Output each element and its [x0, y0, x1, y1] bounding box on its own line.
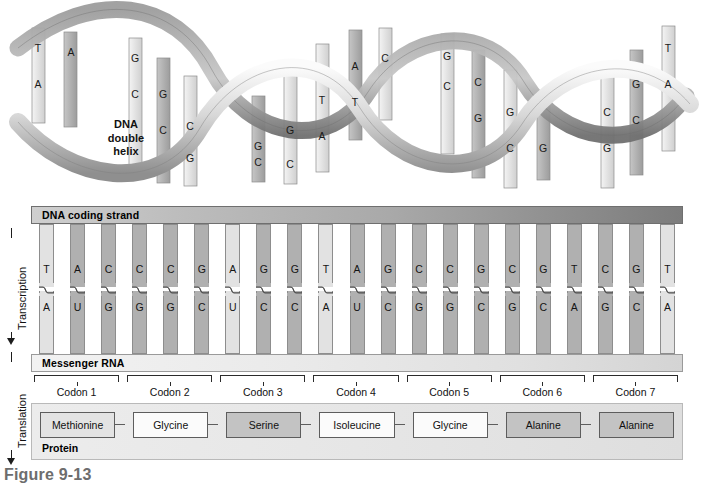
helix-base-letter: C	[284, 158, 296, 170]
helix-base-letter: C	[441, 80, 453, 92]
dna-base-letter: G	[629, 264, 644, 275]
rna-base-letter: A	[660, 302, 675, 313]
amino-acid-label: Serine	[249, 419, 279, 431]
codon-label: Codon 6	[500, 386, 585, 399]
codon-group: Codon 3	[220, 375, 305, 401]
base-pair-column: GC	[256, 224, 271, 354]
base-pair-column: CG	[163, 224, 178, 354]
rna-base-letter: C	[194, 302, 209, 313]
helix-base-letter: A	[32, 78, 44, 90]
helix-base-letter: G	[284, 124, 296, 136]
helix-base-letter: T	[349, 96, 361, 108]
dna-base-letter: A	[225, 264, 240, 275]
amino-acid-box: Glycine	[413, 412, 488, 438]
codon-bracket	[127, 375, 212, 382]
dna-coding-strand-banner: DNA coding strand	[31, 206, 683, 224]
hydrogen-bond-notch	[474, 282, 489, 295]
helix-base-letter: A	[349, 60, 361, 72]
helix-base-letter: G	[441, 50, 453, 62]
base-pair-column: CG	[132, 224, 147, 354]
transcription-axis-label: Transcription	[16, 267, 28, 330]
codon-label: Codon 2	[127, 386, 212, 399]
dna-base-letter: G	[287, 264, 302, 275]
helix-base-letter: G	[157, 88, 169, 100]
base-pair-column: CG	[412, 224, 427, 354]
base-pair-column: AU	[350, 224, 365, 354]
codon-group: Codon 7	[593, 375, 678, 401]
peptide-bond-link	[581, 424, 591, 425]
hydrogen-bond-notch	[163, 282, 178, 295]
hydrogen-bond-notch	[350, 282, 365, 295]
codon-group: Codon 6	[500, 375, 585, 401]
peptide-bond-link	[395, 424, 405, 425]
rna-base-letter: A	[39, 302, 54, 313]
dna-base-letter: G	[256, 264, 271, 275]
codon-bracket	[593, 375, 678, 382]
base-pair-column: TA	[39, 224, 54, 354]
figure-caption: Figure 9-13	[4, 466, 92, 484]
codon-bracket	[500, 375, 585, 382]
hydrogen-bond-notch	[536, 282, 551, 295]
codon-bracket	[220, 375, 305, 382]
peptide-bond-link	[115, 424, 125, 425]
base-pair-column: CG	[598, 224, 613, 354]
dna-base-letter: C	[443, 264, 458, 275]
helix-base-letter: G	[537, 142, 549, 154]
rna-base-letter: G	[132, 302, 147, 313]
dna-base-segment	[163, 224, 178, 287]
dna-base-segment	[318, 224, 333, 287]
rna-base-letter: C	[256, 302, 271, 313]
messenger-rna-label: Messenger RNA	[42, 357, 124, 369]
dna-base-letter: C	[163, 264, 178, 275]
dna-base-letter: G	[194, 264, 209, 275]
dna-base-letter: C	[412, 264, 427, 275]
dna-base-letter: C	[598, 264, 613, 275]
rna-base-letter: C	[287, 302, 302, 313]
dna-base-segment	[474, 224, 489, 287]
rna-base-letter: A	[567, 302, 582, 313]
helix-base-letter: C	[630, 114, 642, 126]
hydrogen-bond-notch	[598, 282, 613, 295]
helix-base-letter: C	[504, 142, 516, 154]
dna-base-letter: C	[505, 264, 520, 275]
codon-bracket	[313, 375, 398, 382]
helix-base-letter: C	[601, 106, 613, 118]
hydrogen-bond-notch	[318, 282, 333, 295]
helix-base-letter: G	[252, 140, 264, 152]
rna-base-letter: C	[474, 302, 489, 313]
base-pair-column: AU	[225, 224, 240, 354]
hydrogen-bond-notch	[70, 282, 85, 295]
rna-base-letter: G	[598, 302, 613, 313]
helix-base-letter: C	[129, 88, 141, 100]
peptide-bond-link	[208, 424, 218, 425]
dna-base-segment	[412, 224, 427, 287]
base-pair-column: GC	[474, 224, 489, 354]
base-pair-column: GC	[536, 224, 551, 354]
rna-base-letter: U	[350, 302, 365, 313]
rna-base-letter: A	[318, 302, 333, 313]
hydrogen-bond-notch	[660, 282, 675, 295]
codon-bracket	[407, 375, 492, 382]
rna-base-letter: U	[70, 302, 85, 313]
rna-base-letter: G	[163, 302, 178, 313]
codon-group: Codon 1	[34, 375, 119, 401]
rna-base-letter: C	[629, 302, 644, 313]
dna-base-segment	[101, 224, 116, 287]
hydrogen-bond-notch	[287, 282, 302, 295]
amino-acid-box: Alanine	[506, 412, 581, 438]
dna-base-segment	[287, 224, 302, 287]
base-pair-column: GC	[194, 224, 209, 354]
hydrogen-bond-notch	[256, 282, 271, 295]
amino-acid-label: Glycine	[153, 419, 188, 431]
amino-acid-label: Isoleucine	[333, 419, 380, 431]
rna-base-letter: G	[443, 302, 458, 313]
base-pair-column: CG	[101, 224, 116, 354]
codon-label: Codon 3	[220, 386, 305, 399]
dna-base-letter: T	[318, 264, 333, 275]
rna-base-letter: G	[101, 302, 116, 313]
dna-base-segment	[194, 224, 209, 287]
rna-base-letter: C	[381, 302, 396, 313]
dna-base-segment	[381, 224, 396, 287]
base-pair-column: CG	[505, 224, 520, 354]
hydrogen-bond-notch	[505, 282, 520, 295]
